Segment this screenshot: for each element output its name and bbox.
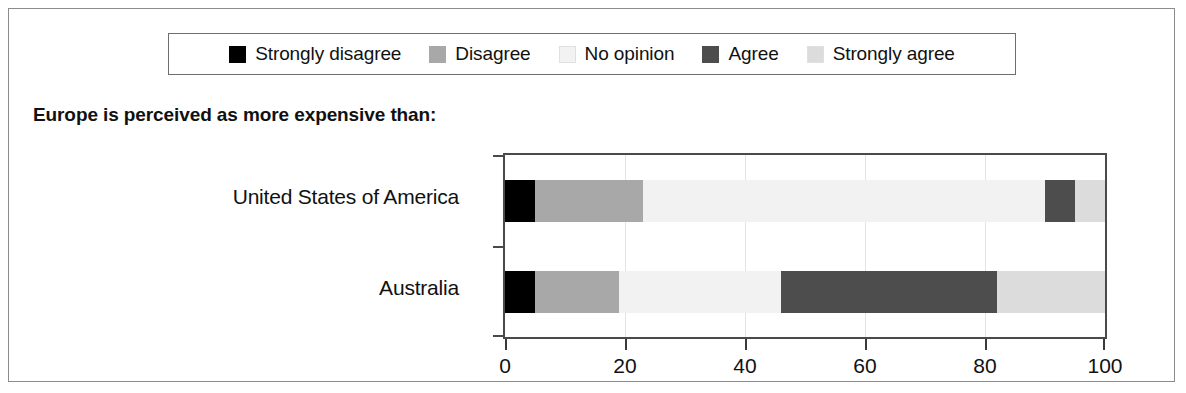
x-axis-tick-label: 80 xyxy=(973,354,996,378)
bar-segment xyxy=(997,271,1105,313)
legend-entry[interactable]: Strongly disagree xyxy=(229,43,401,65)
legend-entry[interactable]: No opinion xyxy=(559,43,675,65)
bar-segment xyxy=(619,271,781,313)
legend-entry[interactable]: Disagree xyxy=(429,43,530,65)
category-label: Australia xyxy=(379,276,459,300)
legend-label: No opinion xyxy=(585,43,675,65)
bar-row xyxy=(505,271,1105,313)
x-axis-tick xyxy=(1103,339,1105,350)
legend-swatch-icon xyxy=(702,46,719,63)
bar-segment xyxy=(1075,180,1105,222)
x-axis-tick-label: 40 xyxy=(733,354,756,378)
x-axis-tick-label: 20 xyxy=(613,354,636,378)
x-axis-tick-label: 60 xyxy=(853,354,876,378)
legend-swatch-icon xyxy=(429,46,446,63)
category-axis-tick xyxy=(493,246,505,248)
bar-segment xyxy=(535,180,643,222)
x-axis-tick xyxy=(865,339,867,350)
x-axis-tick xyxy=(745,339,747,350)
bar-segment xyxy=(505,271,535,313)
legend-label: Strongly disagree xyxy=(255,43,401,65)
bar-segment xyxy=(535,271,619,313)
x-axis-tick-label: 0 xyxy=(499,354,511,378)
plot-inner xyxy=(505,155,1105,337)
category-axis-tick xyxy=(493,335,505,337)
chart-title: Europe is perceived as more expensive th… xyxy=(33,104,436,126)
chart-legend: Strongly disagreeDisagreeNo opinionAgree… xyxy=(168,33,1016,75)
bar-row xyxy=(505,180,1105,222)
x-axis-tick xyxy=(985,339,987,350)
legend-entry[interactable]: Agree xyxy=(702,43,778,65)
x-axis-tick-label: 100 xyxy=(1087,354,1122,378)
bar-segment xyxy=(505,180,535,222)
category-axis-labels: United States of AmericaAustralia xyxy=(0,153,487,335)
legend-entry[interactable]: Strongly agree xyxy=(807,43,955,65)
legend-label: Disagree xyxy=(455,43,530,65)
x-axis-tick xyxy=(625,339,627,350)
chart-figure: Strongly disagreeDisagreeNo opinionAgree… xyxy=(0,0,1186,393)
legend-swatch-icon xyxy=(559,46,576,63)
category-label: United States of America xyxy=(233,185,459,209)
bar-segment xyxy=(643,180,1045,222)
category-axis-tick xyxy=(493,155,505,157)
x-axis-tick xyxy=(505,339,507,350)
bar-segment xyxy=(1045,180,1075,222)
legend-label: Strongly agree xyxy=(833,43,955,65)
legend-swatch-icon xyxy=(807,46,824,63)
legend-label: Agree xyxy=(728,43,778,65)
plot-area: 020406080100 xyxy=(503,153,1107,339)
legend-swatch-icon xyxy=(229,46,246,63)
bar-segment xyxy=(781,271,997,313)
